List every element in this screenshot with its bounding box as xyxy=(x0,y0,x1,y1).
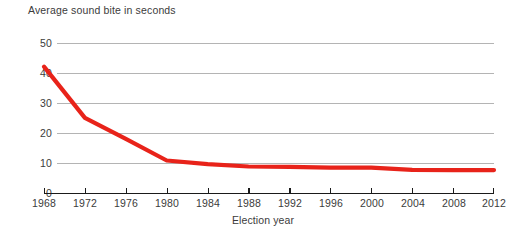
x-axis-tick-label-1976: 1976 xyxy=(106,197,146,209)
x-axis-tick-label-2012: 2012 xyxy=(474,197,514,209)
x-axis xyxy=(44,188,494,194)
x-axis-tick-label-2008: 2008 xyxy=(434,197,474,209)
x-axis-tick-label-1980: 1980 xyxy=(147,197,187,209)
x-axis-tick-label-2004: 2004 xyxy=(393,197,433,209)
x-axis-tick-label-1972: 1972 xyxy=(65,197,105,209)
x-axis-tick-label-1996: 1996 xyxy=(311,197,351,209)
chart-figure: Average sound bite in seconds 50 40 30 2… xyxy=(0,0,526,238)
x-axis-tick-label-1968: 1968 xyxy=(24,197,64,209)
gridlines xyxy=(57,44,494,164)
x-axis-tick-label-1992: 1992 xyxy=(270,197,310,209)
data-series-line xyxy=(44,67,494,171)
x-axis-tick-label-1984: 1984 xyxy=(188,197,228,209)
x-axis-tick-label-2000: 2000 xyxy=(352,197,392,209)
x-axis-tick-label-1988: 1988 xyxy=(229,197,269,209)
x-axis-title: Election year xyxy=(0,214,526,226)
